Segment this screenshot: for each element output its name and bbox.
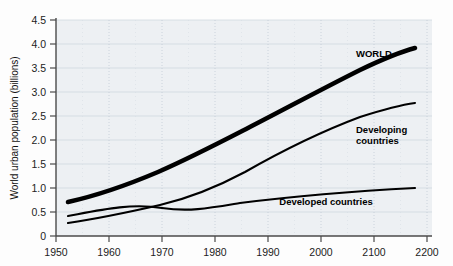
- y-tick-label-0-5: 0.5: [31, 206, 46, 218]
- series-label-world: WORLD: [356, 48, 392, 59]
- y-tick-label-0: 0: [40, 230, 46, 242]
- chart-container: 4.5 4.0 3.5 3.0 2.5 2.0 1.5 1.0 0.5 0 19…: [0, 0, 453, 266]
- x-tick-label-1990: 1990: [256, 246, 280, 258]
- urban-population-line-chart: 4.5 4.0 3.5 3.0 2.5 2.0 1.5 1.0 0.5 0 19…: [0, 0, 453, 266]
- series-label-developed-countries: Developed countries: [279, 196, 372, 207]
- y-tick-label-1-0: 1.0: [31, 182, 46, 194]
- y-tick-label-3-0: 3.0: [31, 86, 46, 98]
- x-tick-label-1960: 1960: [97, 246, 121, 258]
- x-tick-label-1970: 1970: [150, 246, 174, 258]
- y-tick-label-2-5: 2.5: [31, 110, 46, 122]
- y-tick-label-4-0: 4.0: [31, 38, 46, 50]
- x-tick-label-1980: 1980: [203, 246, 227, 258]
- y-tick-label-4-5: 4.5: [31, 14, 46, 26]
- series-label-developing-countries-line2: countries: [356, 135, 399, 146]
- y-axis-ticks: [50, 20, 56, 236]
- x-axis-ticks: [56, 236, 427, 242]
- y-axis-title: World urban population (billions): [9, 56, 20, 199]
- y-tick-label-1-5: 1.5: [31, 158, 46, 170]
- x-tick-label-2100: 2100: [362, 246, 386, 258]
- y-tick-label-2-0: 2.0: [31, 134, 46, 146]
- x-tick-label-2000: 2000: [309, 246, 333, 258]
- x-tick-label-2200: 2200: [415, 246, 439, 258]
- x-tick-label-1950: 1950: [44, 246, 68, 258]
- series-label-developing-countries-line1: Developing: [356, 124, 407, 135]
- y-tick-label-3-5: 3.5: [31, 62, 46, 74]
